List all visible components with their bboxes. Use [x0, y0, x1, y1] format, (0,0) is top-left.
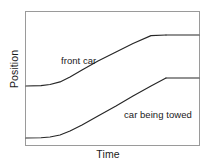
plot-area — [25, 11, 200, 146]
position-vs-time-chart: front car car being towed Position Time — [0, 0, 216, 162]
series-label-car-being-towed: car being towed — [124, 109, 192, 120]
series-label-front-car: front car — [61, 55, 96, 66]
x-axis-label: Time — [0, 148, 216, 160]
y-axis-label: Position — [8, 29, 20, 109]
